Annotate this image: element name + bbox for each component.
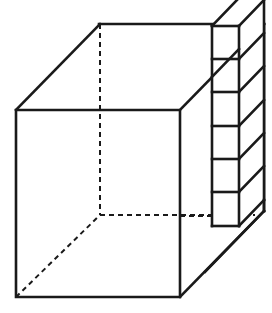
cube-column (212, 0, 264, 226)
cube-diagram (0, 0, 272, 313)
figure-root: Unit cube with a column of six small cub… (0, 0, 272, 313)
cube-front-face (16, 110, 180, 297)
